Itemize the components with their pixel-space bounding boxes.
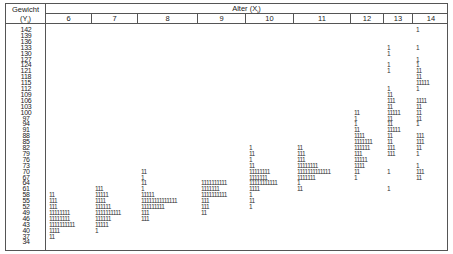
tally-cell: 11: [416, 104, 422, 110]
tally-cell: 11111: [387, 127, 400, 133]
tally-cell: 1111111111: [201, 192, 227, 198]
age-column-headers: 67891011121314: [46, 14, 447, 24]
tally-cell: 1111: [416, 98, 427, 104]
tally-cell: 111: [387, 98, 395, 104]
tally-cell: 1: [416, 57, 419, 63]
tally-cell: 11: [387, 133, 393, 139]
age-header: Alter (Xi): [46, 4, 447, 14]
age-column-10: 10: [246, 14, 294, 24]
tally-cell: 11: [387, 104, 393, 110]
tally-cell: 111111: [95, 216, 111, 222]
tally-cell: 11: [387, 116, 393, 122]
tally-cell: 1: [416, 163, 419, 169]
tally-cell: 1: [416, 27, 419, 33]
tally-cell: 11111: [387, 110, 400, 116]
tally-cell: 1111: [249, 186, 260, 192]
tally-cell: 1: [416, 121, 419, 127]
tally-cell: 1: [141, 186, 144, 192]
tally-cell: 1111111111: [49, 222, 75, 228]
tally-cell: 111: [354, 151, 362, 157]
tally-cell: 11: [416, 74, 422, 80]
tally-cell: 1: [387, 51, 390, 57]
tally-cell: 1: [354, 175, 357, 181]
tally-cell: 1111111: [201, 186, 219, 192]
age-column-6: 6: [46, 14, 92, 24]
tally-cell: 111: [95, 186, 103, 192]
tally-cell: 111: [49, 198, 57, 204]
tally-cell: 111: [201, 204, 209, 210]
tally-cell: 1111111: [354, 139, 372, 145]
age-column-7: 7: [92, 14, 138, 24]
tally-cell: 11111: [95, 192, 108, 198]
weight-header: Gewicht (Yi): [6, 4, 46, 24]
tally-cell: 11111111: [49, 210, 70, 216]
tally-cell: 111: [387, 145, 395, 151]
tally-cell: 1: [387, 45, 390, 51]
tally-cell: 1111: [95, 198, 106, 204]
tally-cell: 1: [416, 86, 419, 92]
weight-label-34: 34: [6, 239, 46, 245]
tally-cell: 1: [416, 45, 419, 51]
tally-cell: 1: [387, 169, 390, 175]
tally-cell: 1: [387, 62, 390, 68]
tally-cell: 11: [416, 145, 422, 151]
tally-cell: 1111: [354, 163, 365, 169]
tally-cell: 11111111: [249, 169, 270, 175]
tally-cell: 111: [201, 198, 209, 204]
tally-cell: 11111111111: [249, 180, 277, 186]
tally-cell: 1: [249, 145, 252, 151]
tally-cell: 11111: [95, 222, 108, 228]
tally-cell: 11111: [354, 157, 367, 163]
tally-cell: 1: [249, 204, 252, 210]
tally-cell: 1: [387, 68, 390, 74]
age-column-8: 8: [138, 14, 198, 24]
tally-cell: 111: [49, 204, 57, 210]
tally-cell: 11: [297, 145, 303, 151]
tally-cell: 111: [387, 151, 395, 157]
tally-cell: 11: [249, 151, 255, 157]
tally-cell: 1111111111: [95, 210, 121, 216]
tally-cell: 1: [387, 186, 390, 192]
tally-cell: 111: [141, 210, 149, 216]
age-column-9: 9: [198, 14, 246, 24]
tally-cell: 1: [387, 86, 390, 92]
age-column-12: 12: [351, 14, 384, 24]
tally-cell: 11: [354, 110, 360, 116]
tally-cell: 1111: [49, 228, 60, 234]
tally-cell: 11: [416, 68, 422, 74]
age-column-14: 14: [413, 14, 449, 24]
tally-cell: 11: [297, 186, 303, 192]
tally-cell: 1: [297, 180, 300, 186]
tally-cell: 11: [249, 163, 255, 169]
tally-cell: 11111111111111: [141, 198, 177, 204]
age-column-13: 13: [384, 14, 413, 24]
tally-cell: 111: [416, 169, 424, 175]
tally-cell: 111: [141, 216, 149, 222]
tally-cell: 11: [387, 121, 393, 127]
tally-cell: 1: [249, 192, 252, 198]
tally-cell: 111111111: [141, 204, 164, 210]
tally-cell: 111: [297, 151, 305, 157]
tally-cell: 11: [354, 127, 360, 133]
tally-cell: 11: [141, 180, 147, 186]
tally-cell: 1111: [354, 133, 365, 139]
tally-cell: 11: [49, 234, 55, 240]
tally-cell: 1: [416, 62, 419, 68]
tally-cell: 111: [416, 133, 424, 139]
tally-cell: 1: [354, 121, 357, 127]
tally-cell: 1111111: [249, 175, 267, 181]
tally-cell: 1111111111: [201, 180, 227, 186]
tally-cell: 11: [387, 139, 393, 145]
tally-cell: 11: [354, 169, 360, 175]
tally-cell: 11: [416, 116, 422, 122]
tally-cell: 11111111: [49, 216, 70, 222]
age-column-11: 11: [294, 14, 351, 24]
tally-cell: 11: [416, 175, 422, 181]
tally-table: Gewicht (Yi) Alter (Xi) 67891011121314 1…: [5, 3, 448, 251]
tally-cell: 111111: [95, 204, 111, 210]
tally-cell: 1: [354, 116, 357, 122]
tally-cell: 11111: [416, 80, 429, 86]
tally-cell: 1: [95, 228, 98, 234]
tally-cell: 1: [416, 151, 419, 157]
weight-title: Gewicht: [6, 5, 45, 14]
